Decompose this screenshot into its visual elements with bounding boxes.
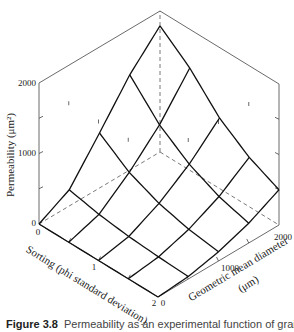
caption-text: Permeability as an experimental function… (64, 318, 294, 330)
diameter-tick (217, 257, 219, 261)
z-tick-2000: 2000 (18, 78, 37, 88)
x-tick-1: 1 (92, 262, 97, 272)
surface-plot: 2000 1000 0 Permeability (μm²) 0 1 2 Sor… (0, 0, 294, 332)
y-tick-0: 0 (161, 298, 166, 308)
plot-box (39, 11, 279, 297)
z-tick-left (39, 152, 43, 154)
z-tick-right (275, 153, 279, 155)
z-axis-title: Permeability (μm²) (4, 113, 17, 197)
hidden-back-right (160, 152, 279, 225)
figure: 2000 1000 0 Permeability (μm²) 0 1 2 Sor… (0, 0, 294, 332)
surface-line-sorting (39, 26, 160, 224)
hidden-box-edges (39, 11, 279, 225)
z-tick-left (39, 116, 43, 118)
y-axis-title-line2: (μm) (236, 273, 262, 296)
z-tick-1000: 1000 (18, 148, 37, 158)
z-tick-right (275, 117, 279, 119)
diameter-tick (247, 239, 249, 243)
top-edge-right (160, 11, 279, 84)
permeability-surface (39, 26, 279, 297)
y-axis-title-line1: Geometric mean diameter (186, 234, 290, 303)
surface-line-sorting (69, 68, 190, 242)
figure-caption: Figure 3.8Permeability as an experimenta… (6, 318, 294, 330)
axis-ticks (39, 101, 279, 279)
surface-line-diameter (100, 133, 219, 252)
z-tick-left (39, 187, 43, 189)
surface-line-diameter (69, 190, 188, 277)
surface-line-diameter (130, 75, 249, 223)
x-tick-0: 0 (36, 227, 41, 237)
top-edge-left (39, 11, 160, 83)
x-tick-2: 2 (152, 298, 157, 308)
surface-line-diameter (160, 26, 279, 190)
x-axis-title: Sorting (phi standard deviation) (24, 243, 151, 328)
figure-number: Figure 3.8 (6, 318, 58, 330)
